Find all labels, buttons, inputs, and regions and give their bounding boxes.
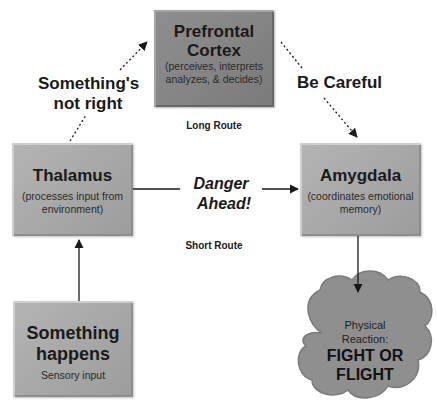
- label-long-route: Long Route: [184, 120, 244, 131]
- prefrontal-title-line1: Prefrontal: [154, 22, 274, 41]
- node-physical-reaction: Physical Reaction: FIGHT OR FLIGHT: [305, 318, 425, 384]
- label-be-careful: Be Careful: [297, 73, 382, 93]
- reaction-title-line1: FIGHT OR: [305, 346, 425, 365]
- something-happens-title-line1: Something: [13, 323, 133, 344]
- prefrontal-desc-line2: analyzes, & decides): [154, 73, 274, 86]
- something-happens-desc: Sensory input: [13, 369, 133, 382]
- somethings-not-right-line1: Something's: [38, 74, 138, 94]
- amygdala-desc-line2: memory): [300, 203, 421, 216]
- danger-line1: Danger: [181, 174, 261, 194]
- node-amygdala: Amygdala (coordinates emotional memory): [300, 143, 421, 236]
- thalamus-desc-line1: (processes input from: [12, 190, 133, 203]
- prefrontal-title-line2: Cortex: [154, 41, 274, 60]
- prefrontal-desc-line1: (perceives, interprets: [154, 60, 274, 73]
- reaction-sub-line1: Physical: [305, 318, 425, 332]
- something-happens-title-line2: happens: [13, 344, 133, 365]
- label-short-route: Short Route: [184, 240, 244, 251]
- node-prefrontal-cortex: Prefrontal Cortex (perceives, interprets…: [154, 10, 274, 107]
- thalamus-desc-line2: environment): [12, 203, 133, 216]
- arrow-thalamus-to-prefrontal-lower: [70, 115, 86, 141]
- reaction-title-line2: FLIGHT: [305, 365, 425, 384]
- amygdala-title: Amygdala: [300, 166, 421, 185]
- label-somethings-not-right: Something's not right: [38, 74, 138, 114]
- danger-line2: Ahead!: [181, 194, 261, 214]
- node-something-happens: Something happens Sensory input: [13, 301, 133, 397]
- arrow-thalamus-to-prefrontal-upper: [120, 42, 147, 70]
- somethings-not-right-line2: not right: [38, 94, 138, 114]
- arrow-prefrontal-to-amygdala-upper: [281, 42, 302, 68]
- node-thalamus: Thalamus (processes input from environme…: [12, 143, 133, 236]
- reaction-sub-line2: Reaction:: [305, 332, 425, 346]
- label-danger-ahead: Danger Ahead!: [181, 174, 261, 214]
- arrow-prefrontal-to-amygdala-lower: [324, 98, 357, 137]
- thalamus-title: Thalamus: [12, 166, 133, 185]
- amygdala-desc-line1: (coordinates emotional: [300, 190, 421, 203]
